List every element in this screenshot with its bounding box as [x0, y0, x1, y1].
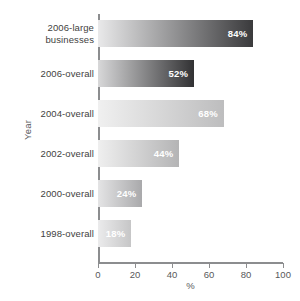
bar[interactable]: 68%	[98, 100, 224, 127]
bar-value-label: 24%	[117, 188, 137, 199]
x-axis-tick	[172, 263, 173, 268]
bar-chart: Year 2006-largebusinesses2006-overall200…	[0, 0, 300, 301]
bar-value-label: 52%	[169, 68, 189, 79]
category-label-line: 2006-large	[2, 22, 94, 34]
category-label-line: 2006-overall	[2, 68, 94, 80]
bar-value-label: 18%	[106, 228, 126, 239]
x-axis-line	[98, 262, 283, 264]
bar[interactable]: 44%	[98, 140, 179, 167]
category-label-line: 2004-overall	[2, 108, 94, 120]
category-label: 2004-overall	[2, 108, 94, 120]
x-axis-tick	[135, 263, 136, 268]
x-axis-tick	[209, 263, 210, 268]
bar[interactable]: 18%	[98, 220, 131, 247]
category-label: 2006-overall	[2, 68, 94, 80]
x-axis-tick	[283, 263, 284, 268]
category-label-line: 2000-overall	[2, 188, 94, 200]
x-axis-title: %	[98, 280, 283, 291]
x-axis-tick	[98, 263, 99, 268]
category-label-line: 2002-overall	[2, 148, 94, 160]
bar-value-label: 44%	[154, 148, 174, 159]
category-label-line: 1998-overall	[2, 228, 94, 240]
category-label: 2002-overall	[2, 148, 94, 160]
plot-area: 84%52%68%44%24%18% 020406080100	[98, 14, 283, 262]
category-label-line: businesses	[2, 34, 94, 46]
category-label: 1998-overall	[2, 228, 94, 240]
x-axis-tick-label: 0	[83, 269, 113, 280]
bar-value-label: 84%	[228, 28, 248, 39]
category-label: 2000-overall	[2, 188, 94, 200]
bar-value-label: 68%	[198, 108, 218, 119]
bar[interactable]: 84%	[98, 20, 253, 47]
x-axis-tick-label: 40	[157, 269, 187, 280]
x-axis-tick-label: 80	[231, 269, 261, 280]
x-axis-tick-label: 60	[194, 269, 224, 280]
bar[interactable]: 24%	[98, 180, 142, 207]
bar[interactable]: 52%	[98, 60, 194, 87]
category-label: 2006-largebusinesses	[2, 22, 94, 45]
x-axis-tick-label: 20	[120, 269, 150, 280]
x-axis-tick-label: 100	[268, 269, 298, 280]
x-axis-tick	[246, 263, 247, 268]
